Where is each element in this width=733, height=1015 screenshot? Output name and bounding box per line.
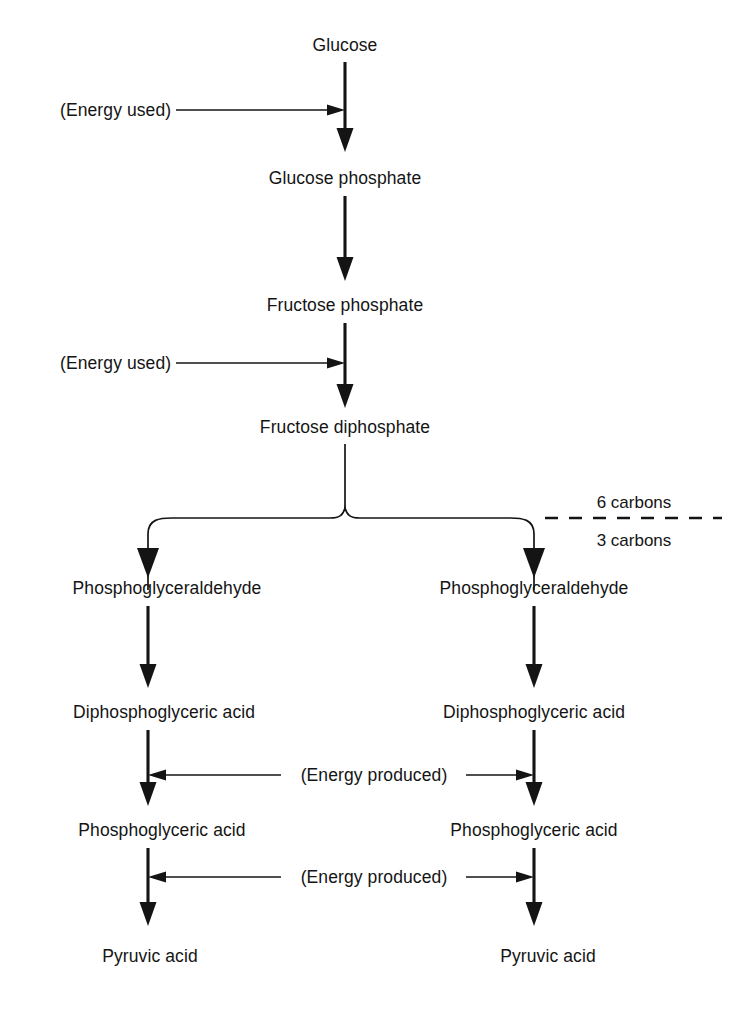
arrow-head-glucose-phosphate-to-fructose-phosphate bbox=[337, 257, 354, 281]
label-six-carbons: 6 carbons bbox=[597, 493, 672, 512]
node-phosphoglyceraldehyde-left: Phosphoglyceraldehyde bbox=[73, 578, 262, 598]
label-energy-used-1: (Energy used) bbox=[60, 100, 171, 120]
node-phosphoglyceric-acid-right: Phosphoglyceric acid bbox=[450, 820, 617, 840]
node-fructose-diphosphate: Fructose diphosphate bbox=[260, 417, 430, 437]
arrow-head-branch-left bbox=[137, 548, 159, 578]
glycolysis-diagram: Glucose (Energy used) Glucose phosphate … bbox=[0, 0, 733, 1015]
label-energy-produced-1: (Energy produced) bbox=[301, 765, 448, 785]
node-diphosphoglyceric-acid-left: Diphosphoglyceric acid bbox=[73, 702, 255, 722]
node-phosphoglyceraldehyde-right: Phosphoglyceraldehyde bbox=[440, 578, 629, 598]
arrow-head-glucose-to-glucose-phosphate bbox=[337, 128, 354, 152]
node-pyruvic-acid-left: Pyruvic acid bbox=[102, 946, 198, 966]
arrow-head-energy-produced-2-right bbox=[516, 872, 534, 883]
flow-canvas: Glucose (Energy used) Glucose phosphate … bbox=[0, 0, 733, 1015]
arrow-head-right-dpg-to-pg bbox=[526, 782, 543, 806]
arrow-head-energy-used-2 bbox=[327, 358, 345, 369]
label-energy-used-2: (Energy used) bbox=[60, 353, 171, 373]
arrow-head-left-pga-to-dpg bbox=[140, 664, 157, 688]
node-phosphoglyceric-acid-left: Phosphoglyceric acid bbox=[78, 820, 245, 840]
node-glucose: Glucose bbox=[313, 35, 378, 55]
arrow-head-energy-used-1 bbox=[327, 105, 345, 116]
arrow-head-right-pg-to-pyruvic bbox=[526, 902, 543, 926]
node-diphosphoglyceric-acid-right: Diphosphoglyceric acid bbox=[443, 702, 625, 722]
label-three-carbons: 3 carbons bbox=[597, 531, 672, 550]
arrow-head-left-pg-to-pyruvic bbox=[140, 902, 157, 926]
arrow-head-right-pga-to-dpg bbox=[526, 664, 543, 688]
arrow-head-fructose-phosphate-to-fructose-diphosphate bbox=[337, 384, 354, 408]
node-glucose-phosphate: Glucose phosphate bbox=[269, 168, 422, 188]
arrow-head-left-dpg-to-pg bbox=[140, 782, 157, 806]
label-energy-produced-2: (Energy produced) bbox=[301, 867, 448, 887]
arrow-head-energy-produced-1-right bbox=[516, 770, 534, 781]
arrow-head-branch-right bbox=[523, 548, 545, 578]
node-fructose-phosphate: Fructose phosphate bbox=[267, 295, 423, 315]
node-pyruvic-acid-right: Pyruvic acid bbox=[500, 946, 596, 966]
